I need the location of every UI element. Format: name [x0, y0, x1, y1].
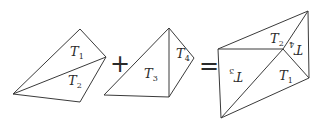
left-diagonal: [13, 57, 106, 94]
left-outline: [13, 29, 106, 102]
triangulation-diagram: T1 T2 + T3 T4 = T2 T4: [0, 0, 324, 132]
label-result-t1: T1: [279, 68, 293, 85]
equals-operator: =: [199, 52, 219, 80]
label-result-t3-rotated: T3: [229, 67, 243, 84]
label-result-t4-rotated: T4: [289, 40, 303, 57]
label-middle-t3: T3: [144, 66, 158, 83]
label-left-t1: T1: [70, 44, 84, 61]
left-quadrilateral: T1 T2: [13, 29, 106, 102]
result-inner-to-bottom-left: [221, 49, 283, 118]
label-middle-t4: T4: [176, 46, 190, 63]
result-outline: [218, 11, 309, 118]
label-left-t2: T2: [68, 73, 82, 90]
plus-operator: +: [110, 50, 130, 78]
result-polygon: T2 T4 T3 T1: [218, 11, 309, 118]
label-result-t2: T2: [270, 31, 284, 48]
